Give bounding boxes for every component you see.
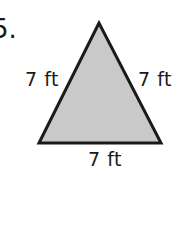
right-side-label: 7 ft xyxy=(138,68,172,90)
left-side-label: 7 ft xyxy=(25,68,59,90)
bottom-side-label: 7 ft xyxy=(88,148,122,170)
